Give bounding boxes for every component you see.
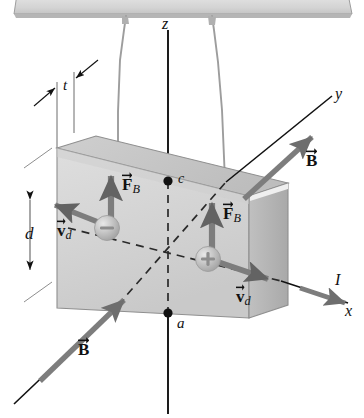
- figure-canvas: [0, 0, 364, 418]
- point-label-a: a: [177, 316, 185, 331]
- hall-effect-figure: z y x I c a t d B B F: [0, 0, 364, 418]
- axis-label-z: z: [162, 16, 168, 32]
- b-symbol-upper: B: [306, 151, 317, 170]
- drift-symbol-positive: v: [236, 287, 245, 306]
- b-label-upper-right: B: [306, 152, 317, 169]
- b-symbol-lower: B: [78, 340, 89, 359]
- point-label-c: c: [178, 172, 184, 186]
- dimension-label-d: d: [25, 225, 34, 242]
- force-symbol-positive: F: [223, 204, 233, 223]
- point-a-dot: [163, 308, 172, 317]
- current-label-I: I: [335, 272, 340, 288]
- force-subscript-positive: B: [233, 211, 240, 225]
- point-c-dot: [163, 176, 172, 185]
- axis-label-y: y: [335, 86, 342, 102]
- drift-label-negative: v d: [57, 222, 72, 242]
- drift-subscript-negative: d: [66, 228, 72, 242]
- drift-subscript-positive: d: [245, 294, 251, 308]
- drift-symbol-negative: v: [57, 221, 66, 240]
- drift-label-positive: v d: [236, 288, 251, 308]
- force-label-positive: F B: [223, 205, 241, 225]
- axis-label-x: x: [345, 303, 352, 319]
- dimension-label-t: t: [63, 78, 67, 93]
- force-symbol-negative: F: [122, 175, 132, 194]
- b-label-lower-left: B: [78, 341, 89, 358]
- thickness-dimension: [34, 60, 98, 148]
- current-arrow: [300, 288, 345, 303]
- force-label-negative: F B: [122, 176, 140, 196]
- support-bar: [14, 0, 352, 18]
- force-subscript-negative: B: [132, 182, 139, 196]
- conducting-slab: [57, 136, 288, 318]
